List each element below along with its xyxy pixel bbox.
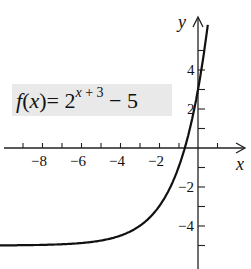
function-label: f(x)= 2x + 3 − 5 [16, 88, 138, 114]
y-tick-label: −2 [178, 179, 194, 195]
x-tick-label: −6 [70, 153, 86, 169]
function-graph: −8 −6 −4 −2 4 2 −2 −4 x y [0, 0, 251, 269]
x-ticks [23, 143, 218, 148]
y-axis-label: y [176, 12, 186, 32]
function-label-rest: = 2 [47, 88, 76, 113]
x-axis-label: x [235, 154, 244, 174]
function-curve [0, 25, 208, 246]
y-tick-label: 4 [187, 62, 195, 78]
x-tick-label: −4 [109, 153, 125, 169]
x-tick-label: −8 [31, 153, 47, 169]
x-tick-label: −2 [148, 153, 164, 169]
y-tick-label: −4 [178, 218, 194, 234]
